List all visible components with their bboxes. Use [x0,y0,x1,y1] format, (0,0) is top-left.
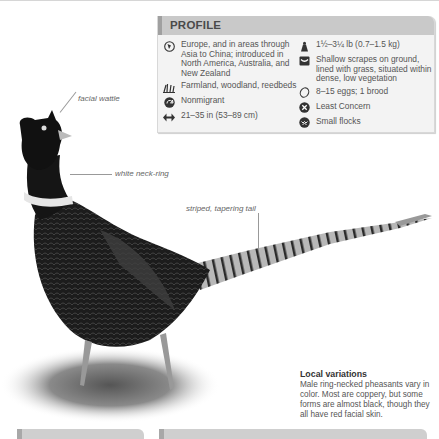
migration-item: Nonmigrant [163,96,297,108]
profile-header: PROFILE [158,16,434,35]
caption-heading: Local variations [300,369,439,379]
bottom-panel-left [17,429,144,439]
neck-ring-label: white neck-ring [115,169,169,178]
social-item: Small flocks [298,117,432,129]
flock-icon [298,117,310,129]
status-item: Least Concern [298,102,432,114]
profile-left-column: Europe, and in areas through Asia to Chi… [163,40,297,126]
weight-icon [298,40,310,52]
wingspan-item: 21–35 in (53–89 cm) [163,111,297,123]
eggs-item: 8–15 eggs; 1 brood [298,87,432,99]
local-variations-caption: Local variations Male ring-necked pheasa… [300,369,439,420]
bottom-panel-right-accent [159,429,164,439]
globe-icon [163,40,175,52]
nest-icon [298,55,310,67]
profile-panel: PROFILE Europe, and in areas through Asi… [157,16,435,133]
wingspan-arrows-icon [163,111,175,123]
migration-arrow-icon [163,96,175,108]
header-accent [158,16,162,35]
nest-item: Shallow scrapes on ground, lined with gr… [298,55,432,84]
bottom-panel-left-accent [17,429,22,439]
egg-icon [298,87,310,99]
tail-label: striped, tapering tail [186,204,256,213]
profile-title: PROFILE [170,19,221,31]
tail-leader-line [258,213,259,249]
weight-item: 1½–3¼ lb (0.7–1.5 kg) [298,40,432,52]
habitat-item: Farmland, woodland, reedbeds [163,81,297,93]
grass-habitat-icon [163,81,175,93]
profile-right-column: 1½–3¼ lb (0.7–1.5 kg) Shallow scrapes on… [298,40,432,132]
range-item: Europe, and in areas through Asia to Chi… [163,40,297,78]
conservation-status-icon [298,102,310,114]
neck-ring-leader-line [70,174,112,175]
facial-wattle-label: facial wattle [78,94,120,103]
bottom-panel-right [159,429,427,439]
caption-body: Male ring-necked pheasants vary in color… [300,380,439,420]
